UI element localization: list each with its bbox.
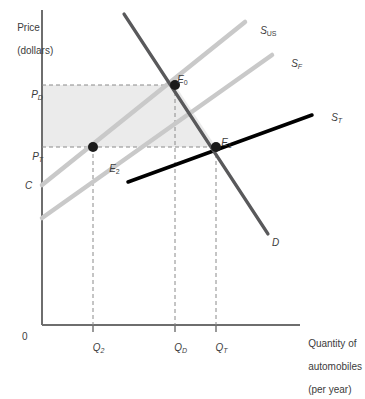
q2-symbol: Q xyxy=(93,342,101,353)
qt-subscript: T xyxy=(223,347,227,354)
x-tick-label-q2: Q2 xyxy=(78,331,108,367)
st-symbol: S xyxy=(331,112,338,123)
point-label-e0: E0 xyxy=(166,63,188,99)
point-label-e1: E1 xyxy=(210,126,232,162)
y-tick-label-pd: PD xyxy=(20,78,43,114)
sf-subscript: F xyxy=(298,63,302,70)
x-axis-title-line2: automobiles xyxy=(308,361,362,372)
pt-symbol: P xyxy=(32,151,39,162)
x-axis-title-line1: Quantity of xyxy=(308,338,356,349)
y-axis-title: Price (dollars) xyxy=(6,10,53,68)
y-axis-title-line1: Price xyxy=(17,22,40,33)
curve-label-st: ST xyxy=(320,101,342,137)
pd-symbol: P xyxy=(31,89,38,100)
sf-symbol: S xyxy=(291,58,298,69)
x-tick-label-origin: 0 xyxy=(22,331,28,342)
curve-label-sus: SUS xyxy=(249,14,277,50)
e0-symbol: E xyxy=(177,74,184,85)
e2-symbol: E xyxy=(109,163,116,174)
e0-subscript: 0 xyxy=(184,79,188,86)
curve-label-sf: SF xyxy=(280,47,302,83)
qd-subscript: D xyxy=(182,347,187,354)
x-tick-label-qt: QT xyxy=(201,331,231,367)
qd-symbol: Q xyxy=(174,342,182,353)
e2-subscript: 2 xyxy=(116,168,120,175)
curve-label-d: D xyxy=(272,237,279,248)
pd-subscript: D xyxy=(38,94,43,101)
x-axis-title-line3: (per year) xyxy=(308,384,351,395)
x-tick-label-qd: QD xyxy=(160,331,190,367)
sus-subscript: US xyxy=(267,30,277,37)
x-axis-title: Quantity of automobiles (per year) xyxy=(297,326,362,399)
y-tick-label-c: C xyxy=(25,180,32,191)
y-axis-title-line2: (dollars) xyxy=(17,45,53,56)
e1-subscript: 1 xyxy=(228,142,232,149)
point-label-e2: E2 xyxy=(98,152,120,188)
e1-symbol: E xyxy=(221,137,228,148)
pt-subscript: T xyxy=(39,156,43,163)
q2-subscript: 2 xyxy=(101,347,105,354)
sus-symbol: S xyxy=(260,25,267,36)
st-subscript: T xyxy=(338,117,342,124)
point-e2 xyxy=(88,142,98,152)
y-tick-label-pt: PT xyxy=(21,140,43,176)
